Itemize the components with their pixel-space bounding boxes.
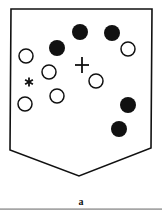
open-circle <box>121 42 135 56</box>
filled-circle <box>49 40 65 56</box>
divider <box>0 208 162 210</box>
filled-circle <box>104 25 120 41</box>
open-circles <box>18 42 135 111</box>
figure-label: a <box>0 196 162 207</box>
plus-marker <box>75 57 89 73</box>
filled-circle <box>120 97 136 113</box>
shield-diagram <box>0 0 162 211</box>
open-circle <box>50 89 64 103</box>
open-circle <box>42 65 56 79</box>
filled-circle <box>111 121 127 137</box>
open-circle <box>89 74 103 88</box>
asterisk-marker <box>25 78 33 87</box>
filled-circle <box>72 24 88 40</box>
open-circle <box>19 49 33 63</box>
open-circle <box>18 97 32 111</box>
